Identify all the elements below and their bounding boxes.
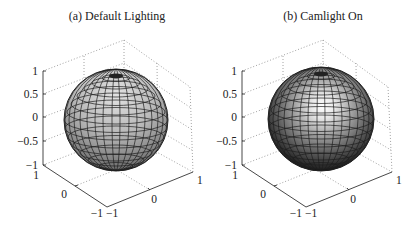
svg-text:−0.5: −0.5 xyxy=(17,135,38,147)
panel-a: (a) Default Lighting xyxy=(17,9,203,219)
svg-text:0: 0 xyxy=(350,193,356,205)
svg-text:1: 1 xyxy=(32,65,38,77)
svg-text:−1: −1 xyxy=(305,207,317,219)
svg-text:0: 0 xyxy=(61,188,67,200)
svg-text:0: 0 xyxy=(32,111,38,123)
svg-text:1: 1 xyxy=(33,169,39,181)
svg-text:0.5: 0.5 xyxy=(24,88,39,100)
svg-text:1: 1 xyxy=(396,174,402,186)
panel-a-sphere xyxy=(64,69,168,171)
svg-text:−1: −1 xyxy=(106,207,118,219)
svg-text:0: 0 xyxy=(260,188,266,200)
panel-a-title: (a) Default Lighting xyxy=(69,9,166,23)
svg-text:1: 1 xyxy=(231,65,237,77)
figure: (a) Default Lighting xyxy=(0,0,413,230)
svg-text:0: 0 xyxy=(231,111,237,123)
panel-b-title: (b) Camlight On xyxy=(283,9,362,23)
svg-text:1: 1 xyxy=(197,174,203,186)
svg-text:−1: −1 xyxy=(290,207,302,219)
svg-text:1: 1 xyxy=(232,169,238,181)
svg-text:0: 0 xyxy=(151,193,157,205)
svg-text:0.5: 0.5 xyxy=(223,88,238,100)
panel-b: (b) Camlight On xyxy=(216,9,402,219)
svg-text:−0.5: −0.5 xyxy=(216,135,237,147)
svg-text:−1: −1 xyxy=(91,207,103,219)
panel-b-sphere xyxy=(268,67,374,171)
